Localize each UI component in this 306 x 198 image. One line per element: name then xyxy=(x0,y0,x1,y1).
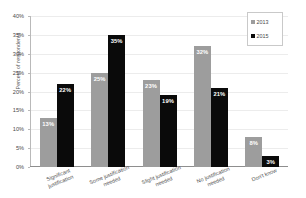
y-axis-tick xyxy=(28,167,31,168)
y-axis-tick xyxy=(28,35,31,36)
y-axis-tick-label: 25% xyxy=(2,70,24,76)
y-axis-tick-label: 40% xyxy=(2,13,24,19)
y-axis-tick xyxy=(28,110,31,111)
bar-value-label: 19% xyxy=(160,98,177,104)
bar-2013[interactable]: 13% xyxy=(40,118,57,167)
y-axis-title: Percent of respondents xyxy=(15,6,21,116)
bar-value-label: 13% xyxy=(40,121,57,127)
y-axis-tick-label: 30% xyxy=(2,51,24,57)
legend-label: 2013 xyxy=(257,19,269,25)
bar-value-label: 35% xyxy=(108,38,125,44)
y-axis-tick xyxy=(28,54,31,55)
bar-group: 25%35% xyxy=(82,16,133,167)
y-axis-tick-label: 10% xyxy=(2,126,24,132)
bar-2015[interactable]: 21% xyxy=(211,88,228,167)
bar-2015[interactable]: 22% xyxy=(57,84,74,167)
legend-label: 2015 xyxy=(257,33,269,39)
bar-2013[interactable]: 25% xyxy=(91,73,108,167)
legend-item-2013: 2013 xyxy=(251,19,269,25)
bar-2015[interactable]: 19% xyxy=(160,95,177,167)
bar-chart: Percent of respondents 40%35%30%25%20%15… xyxy=(0,0,306,198)
y-axis-tick-label: 15% xyxy=(2,107,24,113)
bar-2015[interactable]: 35% xyxy=(108,35,125,167)
bar-2013[interactable]: 8% xyxy=(245,137,262,167)
bar-value-label: 25% xyxy=(91,76,108,82)
bar-group: 32%21% xyxy=(185,16,236,167)
y-axis-tick xyxy=(28,92,31,93)
bar-group: 13%22% xyxy=(31,16,82,167)
bar-group: 23%19% xyxy=(134,16,185,167)
y-axis-tick-label: 35% xyxy=(2,32,24,38)
y-axis-tick xyxy=(28,16,31,17)
legend: 2013 2015 xyxy=(247,12,283,46)
x-axis-labels: SignificantjustificationSome justificati… xyxy=(31,169,289,198)
legend-swatch-icon xyxy=(251,20,255,24)
y-axis-tick-label: 5% xyxy=(2,145,24,151)
y-axis-tick xyxy=(28,73,31,74)
legend-item-2015: 2015 xyxy=(251,33,269,39)
legend-swatch-icon xyxy=(251,34,255,38)
bar-value-label: 22% xyxy=(57,87,74,93)
y-axis-tick xyxy=(28,129,31,130)
bar-2013[interactable]: 23% xyxy=(143,80,160,167)
bar-2013[interactable]: 32% xyxy=(194,46,211,167)
y-axis-tick-label: 0% xyxy=(2,164,24,170)
y-axis-tick-label: 20% xyxy=(2,89,24,95)
y-axis-tick xyxy=(28,148,31,149)
bar-value-label: 23% xyxy=(143,83,160,89)
bar-value-label: 21% xyxy=(211,91,228,97)
bar-value-label: 3% xyxy=(262,159,279,165)
bar-value-label: 8% xyxy=(245,140,262,146)
bar-value-label: 32% xyxy=(194,49,211,55)
